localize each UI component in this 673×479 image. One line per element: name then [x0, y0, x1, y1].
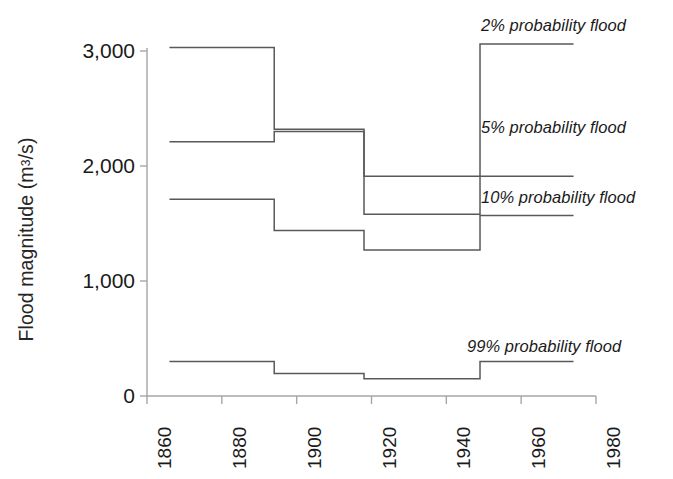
series-group [169, 44, 573, 379]
series-annotation-3: 99% probability flood [467, 337, 621, 356]
series-annotation-0: 2% probability flood [481, 16, 626, 35]
y-tick-label: 1,000 [82, 269, 135, 293]
x-tick-label: 1920 [379, 427, 401, 469]
x-tick-label: 1880 [229, 427, 251, 469]
series-step-line-3 [169, 362, 573, 379]
y-tick-label: 3,000 [82, 39, 135, 63]
x-tick-label: 1960 [528, 427, 550, 469]
series-step-line-0 [169, 44, 573, 176]
series-annotation-1: 5% probability flood [481, 118, 626, 137]
plot-area [0, 0, 673, 479]
x-tick-label: 1860 [154, 427, 176, 469]
y-tick-label: 2,000 [82, 154, 135, 178]
x-tick-label: 1940 [453, 427, 475, 469]
x-tick-label: 1900 [304, 427, 326, 469]
y-tick-label: 0 [123, 384, 135, 408]
flood-magnitude-step-chart: Flood magnitude (m3/s) 01,0002,0003,000 … [0, 0, 673, 479]
x-tick-label: 1980 [603, 427, 625, 469]
series-annotation-2: 10% probability flood [481, 188, 635, 207]
